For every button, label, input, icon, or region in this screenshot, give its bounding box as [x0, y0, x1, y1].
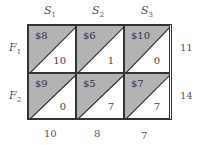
demand-s3: 7 — [141, 130, 147, 141]
demand-s1: 10 — [44, 128, 57, 139]
row-label: F — [9, 41, 17, 54]
cell-f2-s2: $5 7 — [76, 73, 124, 119]
cost: $10 — [131, 30, 150, 41]
cost: $9 — [35, 78, 48, 89]
allocation: 7 — [154, 101, 160, 112]
cell-f2-s3: $7 7 — [124, 73, 170, 119]
col-label: S — [92, 4, 100, 17]
allocation: 7 — [108, 101, 114, 112]
allocation: 0 — [60, 101, 66, 112]
col-sub: 2 — [100, 11, 104, 19]
allocation: 0 — [154, 55, 160, 66]
cost: $6 — [83, 30, 96, 41]
transportation-table: $8 10 $6 1 $10 0 $9 0 $5 7 $7 7 — [27, 24, 172, 120]
cell-f1-s1: $8 10 — [28, 25, 76, 73]
allocation: 10 — [53, 55, 66, 66]
row-header-f1: F1 — [9, 41, 21, 56]
row-label: F — [9, 89, 17, 102]
cost: $5 — [83, 78, 96, 89]
col-label: S — [141, 4, 149, 17]
demand-s2: 8 — [94, 128, 100, 139]
cost: $7 — [131, 78, 144, 89]
column-header-s1: S1 — [44, 4, 56, 19]
supply-f2: 14 — [180, 90, 193, 101]
col-sub: 3 — [149, 11, 153, 19]
col-label: S — [44, 4, 52, 17]
column-header-s2: S2 — [92, 4, 104, 19]
supply-f1: 11 — [180, 42, 193, 53]
row-header-f2: F2 — [9, 89, 21, 104]
row-sub: 2 — [17, 96, 21, 104]
cell-f2-s1: $9 0 — [28, 73, 76, 119]
column-header-s3: S3 — [141, 4, 153, 19]
allocation: 1 — [108, 55, 114, 66]
row-sub: 1 — [17, 48, 21, 56]
cost: $8 — [35, 30, 48, 41]
cell-f1-s3: $10 0 — [124, 25, 170, 73]
col-sub: 1 — [52, 11, 56, 19]
cell-f1-s2: $6 1 — [76, 25, 124, 73]
